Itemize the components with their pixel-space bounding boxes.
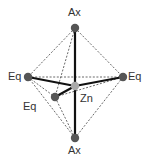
atom-eq-front (51, 93, 59, 101)
edge-ax_top-eq_right (75, 28, 123, 77)
edge-ax_bottom-eq_front (55, 97, 75, 138)
atom-eq-left (24, 73, 32, 81)
ax-bottom-label: Ax (68, 145, 81, 156)
eq-front-label: Eq (23, 101, 36, 112)
bond-zn-eq_right (75, 77, 123, 86)
eq-left-label: Eq (8, 71, 21, 82)
edge-ax_bottom-eq_right (75, 77, 123, 138)
bond-zn-eq_left (28, 77, 75, 86)
atom-ax-top (71, 24, 79, 32)
atom-zn (71, 82, 79, 90)
ax-top-label: Ax (68, 7, 81, 18)
eq-right-label: Eq (128, 71, 141, 82)
atom-ax-bottom (71, 134, 79, 142)
zn-label: Zn (80, 93, 93, 104)
atom-eq-right (119, 73, 127, 81)
